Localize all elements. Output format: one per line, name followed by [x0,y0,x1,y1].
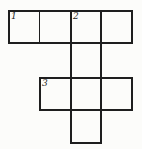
crossword-cell-r4c3[interactable] [70,110,102,144]
crossword-cell-r1c3[interactable]: 2 [70,10,102,44]
crossword-cell-r2c3[interactable] [70,43,102,77]
puzzle-figure: 123 [0,0,142,149]
crossword-cell-r1c4[interactable] [101,10,133,44]
crossword-cell-r3c4[interactable] [101,77,133,111]
cell-number-3: 3 [42,78,48,89]
cell-number-1: 1 [11,11,17,22]
crossword-cell-r3c3[interactable] [70,77,102,111]
crossword-cell-r1c1[interactable]: 1 [8,10,40,44]
crossword-cell-r1c2[interactable] [39,10,71,44]
crossword-cell-r3c2[interactable]: 3 [39,77,71,111]
cell-number-2: 2 [73,11,79,22]
